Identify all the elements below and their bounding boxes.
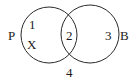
region-b-only-label: 3 — [105, 28, 112, 43]
set-p-label: P — [8, 28, 15, 43]
region-p-only-marker: X — [27, 37, 37, 52]
region-p-only-label: 1 — [29, 17, 36, 32]
region-intersection-label: 2 — [66, 28, 73, 43]
set-b-label: B — [120, 28, 129, 43]
region-outside-label: 4 — [66, 65, 73, 78]
venn-diagram: P B 1 X 2 3 4 — [0, 0, 134, 78]
